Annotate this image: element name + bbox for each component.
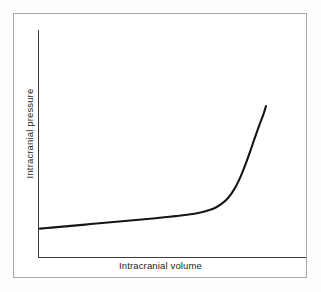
compliance-curve [40, 106, 266, 229]
y-axis-label-wrapper: Intracranial pressure [0, 0, 60, 292]
y-axis-label: Intracranial pressure [24, 69, 35, 199]
figure-container: Intracranial volume Intracranial pressur… [0, 0, 321, 292]
